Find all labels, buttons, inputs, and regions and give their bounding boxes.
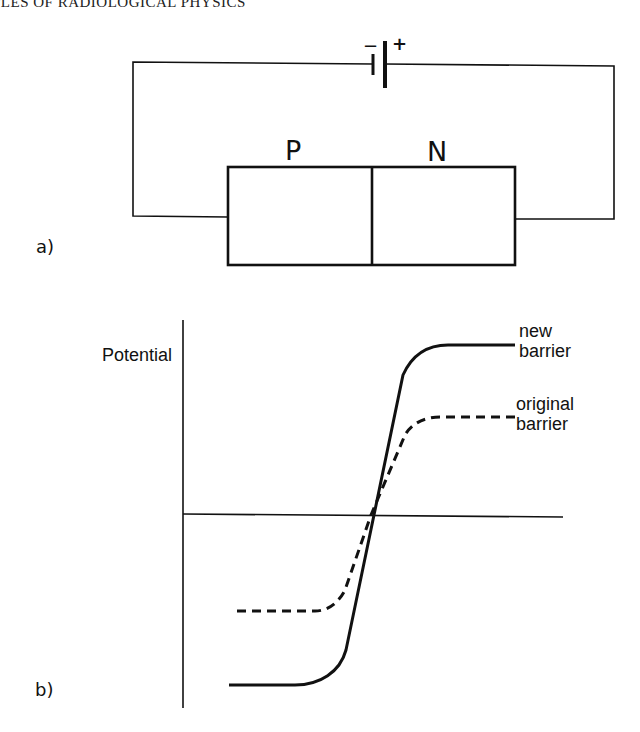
potential-graph [183,320,563,708]
n-region-label: N [427,136,447,167]
original-barrier-label-line2: barrier [516,414,568,434]
new-barrier-label-line1: new [519,321,553,341]
p-region-label: P [285,135,301,166]
panel-a-label: a) [36,236,54,257]
original-barrier-label-line1: original [516,394,574,414]
battery-plus-sign: + [392,33,407,54]
figure: − + P N a) Potential new barrier origina… [0,0,640,732]
wire-right [385,64,614,219]
y-axis-label: Potential [102,345,172,365]
new-barrier-label-line2: barrier [519,341,571,361]
wire-left [133,62,373,217]
battery-minus-sign: − [363,35,378,56]
circuit-diagram [133,41,614,265]
panel-b-label: b) [35,679,53,700]
